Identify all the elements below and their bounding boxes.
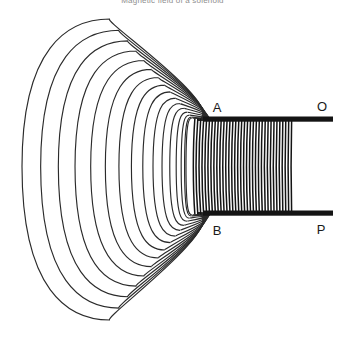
terminal-bar-o xyxy=(203,117,333,122)
coil-turn xyxy=(202,119,203,215)
coil-turn xyxy=(229,119,230,215)
coil-turn xyxy=(273,119,274,215)
coil-turn xyxy=(256,119,257,215)
coil-turn xyxy=(270,119,271,215)
coil-turn xyxy=(205,119,206,215)
pole-label-a: A xyxy=(213,100,222,115)
solenoid-field-diagram: A B O P xyxy=(0,0,345,338)
coil-turn xyxy=(262,119,263,215)
field-line xyxy=(41,30,204,308)
coil-turn xyxy=(226,119,227,215)
coil-turn xyxy=(259,119,260,215)
coil-turn xyxy=(267,119,268,215)
coil-turn xyxy=(247,119,248,215)
coil-turn xyxy=(276,119,277,215)
coil-turn xyxy=(238,119,239,215)
coil-turn xyxy=(282,119,283,215)
coil-turn xyxy=(288,119,289,215)
coil-turn xyxy=(199,119,200,215)
coil-turn xyxy=(244,119,245,215)
coil-turn xyxy=(220,119,221,215)
coil-turn xyxy=(196,119,198,215)
coil-turn xyxy=(211,119,212,215)
coil-turn xyxy=(193,119,195,215)
terminal-label-o: O xyxy=(317,99,327,114)
terminal-label-p: P xyxy=(317,222,326,237)
coil-turn xyxy=(217,119,218,215)
coil-turn xyxy=(235,119,236,215)
coil-turn xyxy=(223,119,224,215)
solenoid-coil-turns-group xyxy=(193,119,291,215)
coil-turn xyxy=(241,119,242,215)
coil-turn xyxy=(232,119,233,215)
coil-turn xyxy=(250,119,251,215)
coil-turn xyxy=(264,119,265,215)
terminal-bar-p xyxy=(203,211,333,216)
pole-label-b: B xyxy=(213,223,222,238)
coil-turn xyxy=(214,119,215,215)
figure-root: Magnetic field of a solenoid A B O P xyxy=(0,0,345,338)
coil-turn xyxy=(279,119,280,215)
coil-turn xyxy=(253,119,254,215)
magnetic-field-lines-group xyxy=(22,19,211,320)
coil-turn xyxy=(208,119,209,215)
coil-turn xyxy=(285,119,286,215)
